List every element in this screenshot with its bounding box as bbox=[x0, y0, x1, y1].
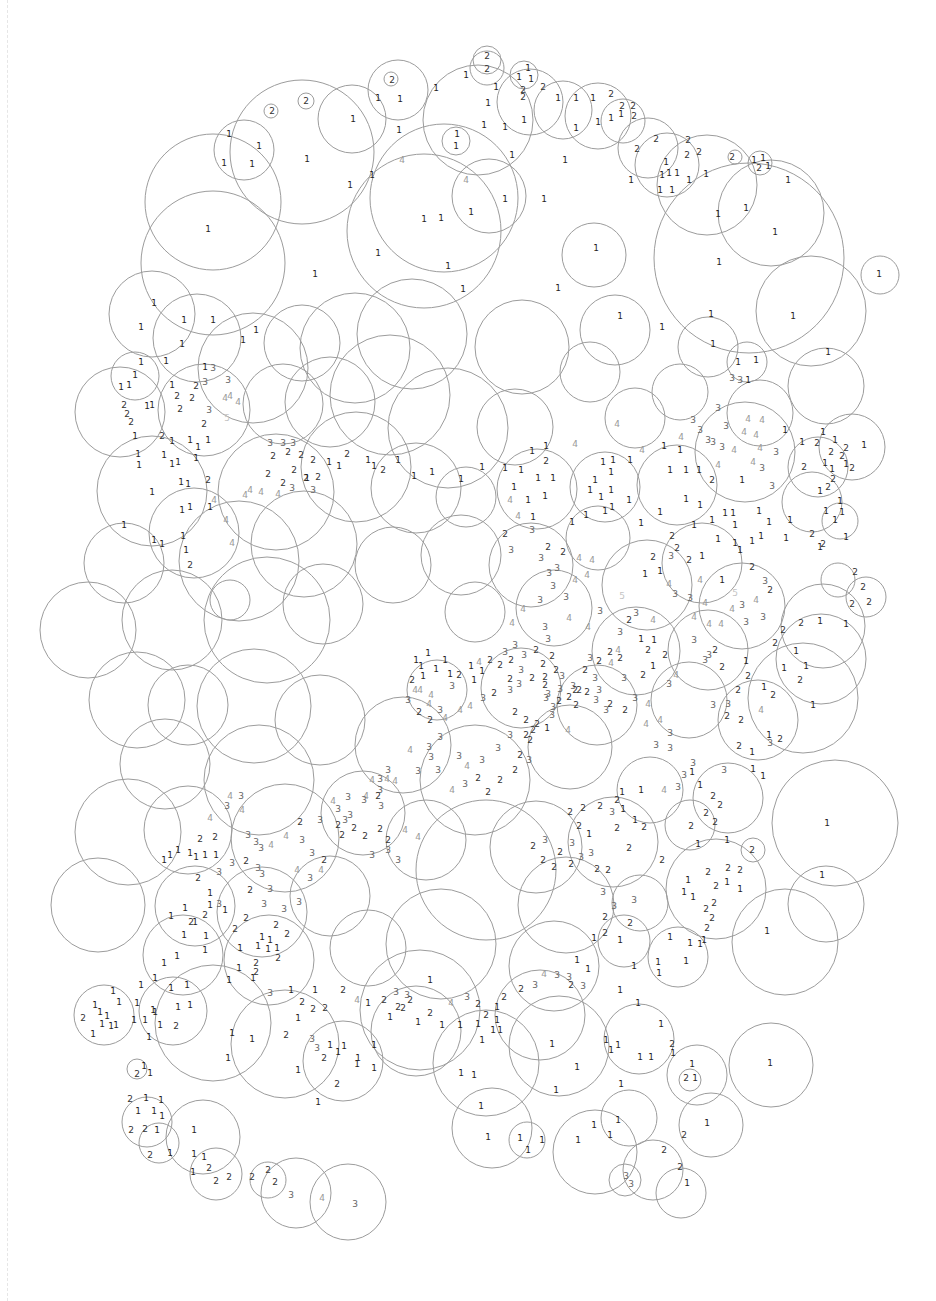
region-number-label: 1 bbox=[820, 427, 826, 437]
region-number-label: 2 bbox=[322, 1003, 328, 1013]
region-number-label: 1 bbox=[490, 1025, 496, 1035]
region-number-label: 2 bbox=[321, 855, 327, 865]
region-number-label: 3 bbox=[529, 525, 535, 535]
region-number-label: 2 bbox=[830, 474, 836, 484]
region-number-label: 2 bbox=[280, 478, 286, 488]
region-number-label: 1 bbox=[667, 932, 673, 942]
region-number-label: 1 bbox=[312, 985, 318, 995]
region-number-label: 1 bbox=[131, 1015, 137, 1025]
region-number-label: 1 bbox=[135, 449, 141, 459]
region-number-label: 1 bbox=[666, 168, 672, 178]
region-number-label: 2 bbox=[416, 707, 422, 717]
region-number-label: 2 bbox=[640, 670, 646, 680]
region-number-label: 2 bbox=[173, 1021, 179, 1031]
region-number-label: 1 bbox=[716, 257, 722, 267]
region-number-label: 1 bbox=[686, 175, 692, 185]
region-number-label: 4 bbox=[354, 995, 360, 1005]
region-number-label: 1 bbox=[587, 485, 593, 495]
region-number-label: 3 bbox=[617, 627, 623, 637]
region-number-label: 3 bbox=[449, 681, 455, 691]
region-number-label: 1 bbox=[555, 283, 561, 293]
region-number-label: 1 bbox=[710, 339, 716, 349]
region-number-label: 4 bbox=[239, 805, 245, 815]
region-number-label: 1 bbox=[312, 269, 318, 279]
outline-circle bbox=[497, 449, 577, 529]
region-number-label: 3 bbox=[229, 858, 235, 868]
region-number-label: 3 bbox=[395, 855, 401, 865]
region-number-label: 3 bbox=[307, 873, 313, 883]
region-number-label: 4 bbox=[407, 745, 413, 755]
region-number-label: 2 bbox=[484, 64, 490, 74]
region-number-label: 1 bbox=[585, 964, 591, 974]
region-number-label: 4 bbox=[757, 443, 763, 453]
region-number-label: 1 bbox=[590, 93, 596, 103]
region-number-label: 1 bbox=[615, 1040, 621, 1050]
region-number-label: 1 bbox=[829, 464, 835, 474]
region-number-label: 2 bbox=[849, 599, 855, 609]
region-number-label: 1 bbox=[822, 458, 828, 468]
region-number-label: 1 bbox=[608, 1045, 614, 1055]
region-number-label: 1 bbox=[617, 935, 623, 945]
region-number-label: 2 bbox=[540, 659, 546, 669]
region-number-label: 3 bbox=[743, 617, 749, 627]
outline-circle bbox=[748, 643, 858, 753]
region-number-label: 4 bbox=[235, 397, 241, 407]
region-number-label: 1 bbox=[202, 945, 208, 955]
region-number-label: 3 bbox=[545, 689, 551, 699]
region-number-label: 2 bbox=[576, 821, 582, 831]
region-number-label: 4 bbox=[753, 595, 759, 605]
region-number-label: 1 bbox=[631, 961, 637, 971]
region-number-label: 1 bbox=[442, 655, 448, 665]
outline-circle bbox=[445, 582, 505, 642]
region-number-label: 3 bbox=[462, 779, 468, 789]
region-number-label: 3 bbox=[369, 850, 375, 860]
region-number-label: 1 bbox=[255, 941, 261, 951]
region-number-label: 1 bbox=[494, 1002, 500, 1012]
region-number-label: 1 bbox=[195, 442, 201, 452]
region-number-label: 1 bbox=[136, 460, 142, 470]
region-number-label: 1 bbox=[335, 1047, 341, 1057]
region-number-label: 1 bbox=[790, 311, 796, 321]
region-number-label: 2 bbox=[553, 665, 559, 675]
region-number-label: 3 bbox=[259, 869, 265, 879]
region-number-label: 3 bbox=[405, 695, 411, 705]
region-number-label: 1 bbox=[819, 870, 825, 880]
region-number-label: 1 bbox=[121, 520, 127, 530]
region-number-label: 1 bbox=[138, 357, 144, 367]
region-number-label: 2 bbox=[662, 650, 668, 660]
region-number-label: 1 bbox=[817, 616, 823, 626]
region-number-label: 2 bbox=[549, 651, 555, 661]
region-number-label: 2 bbox=[584, 687, 590, 697]
region-number-label: 4 bbox=[227, 391, 233, 401]
region-number-label: 2 bbox=[193, 381, 199, 391]
region-number-label: 4 bbox=[645, 699, 651, 709]
region-number-label: 1 bbox=[457, 1020, 463, 1030]
outline-circle bbox=[89, 652, 185, 748]
region-number-label: 3 bbox=[710, 700, 716, 710]
region-number-label: 2 bbox=[602, 928, 608, 938]
region-number-label: 2 bbox=[530, 725, 536, 735]
region-number-label: 3 bbox=[723, 421, 729, 431]
outline-circle bbox=[144, 786, 232, 874]
region-number-label: 1 bbox=[544, 723, 550, 733]
region-number-label: 1 bbox=[502, 122, 508, 132]
region-number-label: 1 bbox=[583, 510, 589, 520]
region-number-label: 1 bbox=[659, 322, 665, 332]
region-number-label: 1 bbox=[825, 347, 831, 357]
outline-circle bbox=[204, 557, 330, 683]
region-number-label: 2 bbox=[737, 865, 743, 875]
outline-circle bbox=[756, 256, 866, 366]
region-number-label: 2 bbox=[351, 823, 357, 833]
region-number-label: 2 bbox=[645, 645, 651, 655]
region-number-label: 1 bbox=[574, 955, 580, 965]
region-number-label: 3 bbox=[216, 867, 222, 877]
region-number-label: 2 bbox=[512, 707, 518, 717]
region-number-label: 1 bbox=[181, 930, 187, 940]
region-number-label: 1 bbox=[651, 635, 657, 645]
outline-circle bbox=[145, 134, 281, 270]
region-number-label: 2 bbox=[212, 832, 218, 842]
region-number-label: 1 bbox=[427, 975, 433, 985]
region-number-label: 3 bbox=[706, 650, 712, 660]
region-number-label: 1 bbox=[265, 944, 271, 954]
region-number-label: 1 bbox=[468, 207, 474, 217]
